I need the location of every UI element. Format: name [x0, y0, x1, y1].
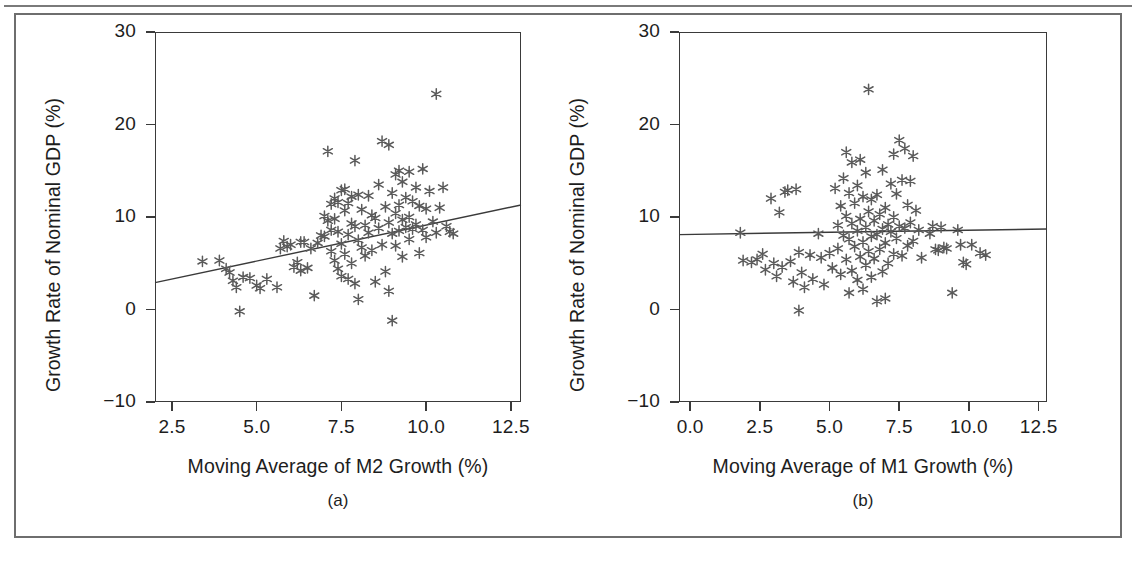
x-tick-mark: [829, 402, 831, 411]
x-tick-label: 5.0: [790, 416, 870, 438]
data-point: [861, 167, 870, 177]
data-point: [875, 244, 884, 254]
data-point: [736, 228, 745, 238]
data-point: [808, 274, 817, 284]
data-point: [878, 266, 887, 276]
data-point: [864, 206, 873, 216]
data-point: [842, 147, 851, 157]
x-tick-label: 12.5: [999, 416, 1079, 438]
data-point: [889, 212, 898, 222]
data-point: [850, 198, 859, 208]
regression-line: [679, 229, 1047, 235]
x-tick-mark: [759, 402, 761, 411]
data-point: [853, 275, 862, 285]
data-point: [817, 253, 826, 263]
data-point: [839, 173, 848, 183]
panel-caption-b: (b): [679, 491, 1047, 511]
x-tick-label: 7.5: [859, 416, 939, 438]
x-axis-title-b: Moving Average of M1 Growth (%): [679, 455, 1047, 478]
data-point: [878, 165, 887, 175]
x-tick-label: 0.0: [650, 416, 730, 438]
data-point: [845, 234, 854, 244]
data-point: [859, 237, 868, 247]
data-point: [903, 200, 912, 210]
data-point: [856, 252, 865, 262]
data-point: [845, 188, 854, 198]
data-point: [948, 288, 957, 298]
data-point: [847, 218, 856, 228]
data-point: [842, 211, 851, 221]
x-tick-mark: [968, 402, 970, 411]
data-point: [875, 209, 884, 219]
data-point: [884, 258, 893, 268]
data-point: [895, 135, 904, 145]
y-tick-mark: [670, 31, 679, 33]
data-point: [889, 149, 898, 159]
data-point: [789, 277, 798, 287]
data-point: [898, 251, 907, 261]
data-point: [814, 228, 823, 238]
data-point: [881, 203, 890, 213]
data-point: [797, 267, 806, 277]
data-point: [833, 220, 842, 230]
data-point: [892, 189, 901, 199]
data-point: [861, 222, 870, 232]
data-point: [847, 265, 856, 275]
x-tick-mark: [689, 402, 691, 411]
data-point: [836, 201, 845, 211]
data-point: [867, 272, 876, 282]
data-point: [739, 255, 748, 265]
data-point: [956, 240, 965, 250]
data-point: [767, 193, 776, 203]
data-point: [794, 305, 803, 315]
data-point: [892, 233, 901, 243]
data-point: [842, 254, 851, 264]
data-point: [859, 284, 868, 294]
data-point: [856, 214, 865, 224]
panel-b: 0.02.55.07.510.012.5−100102030 Growth Ra…: [0, 0, 1137, 562]
data-point: [794, 247, 803, 257]
data-point: [778, 262, 787, 272]
x-tick-label: 2.5: [720, 416, 800, 438]
data-point: [786, 256, 795, 266]
data-point: [881, 238, 890, 248]
data-point: [825, 248, 834, 258]
y-axis-title-b: Growth Rate of Nominal GDP (%): [566, 98, 589, 392]
y-tick-label: −10: [574, 390, 660, 412]
y-tick-mark: [670, 124, 679, 126]
data-point: [772, 271, 781, 281]
data-point: [833, 243, 842, 253]
x-tick-mark: [1038, 402, 1040, 411]
data-point: [911, 205, 920, 215]
y-tick-mark: [670, 401, 679, 403]
figure-canvas: 2.55.07.510.012.5−100102030 Growth Rate …: [0, 0, 1137, 562]
data-point: [853, 180, 862, 190]
x-tick-label: 10.0: [929, 416, 1009, 438]
data-point: [886, 179, 895, 189]
y-tick-label: 30: [574, 20, 660, 42]
data-point: [864, 84, 873, 94]
data-point: [889, 249, 898, 259]
data-point: [900, 143, 909, 153]
data-point: [819, 279, 828, 289]
data-point: [917, 253, 926, 263]
data-point: [845, 288, 854, 298]
data-point: [775, 207, 784, 217]
data-point: [909, 151, 918, 161]
data-point: [806, 250, 815, 260]
data-point: [914, 225, 923, 235]
x-tick-mark: [898, 402, 900, 411]
data-point: [967, 240, 976, 250]
data-point: [864, 246, 873, 256]
data-point: [800, 282, 809, 292]
data-point: [853, 226, 862, 236]
y-tick-mark: [670, 309, 679, 311]
y-tick-mark: [670, 216, 679, 218]
data-point: [831, 183, 840, 193]
data-point: [850, 241, 859, 251]
